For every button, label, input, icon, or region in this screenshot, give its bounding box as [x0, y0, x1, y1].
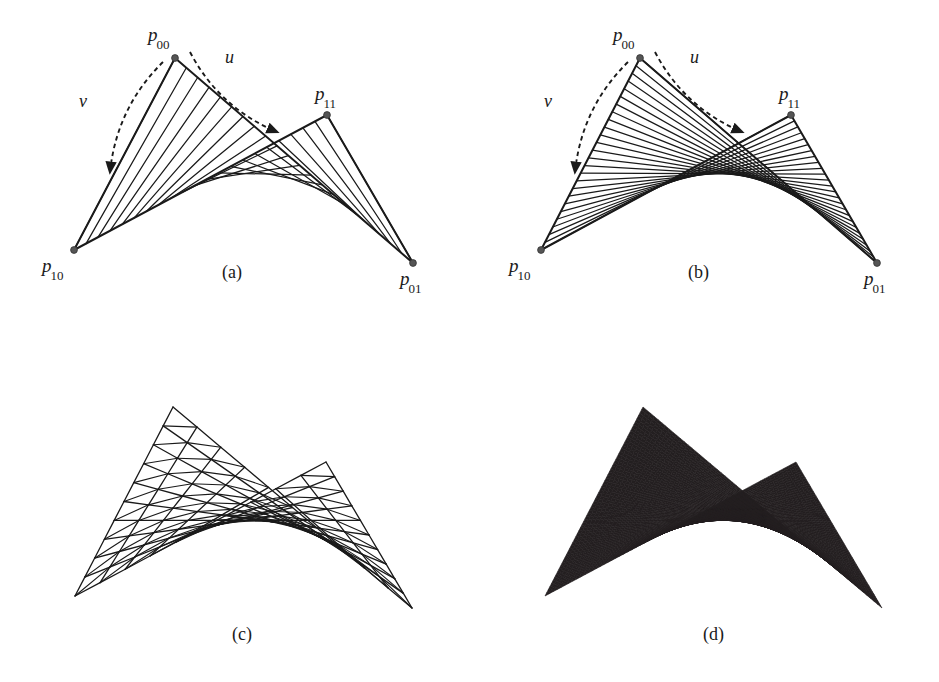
corner-point-p11	[324, 112, 331, 119]
corner-point-p01	[410, 260, 417, 267]
corner-point-p00	[637, 55, 644, 62]
ruling-u	[110, 87, 209, 230]
corner-label-p01-panel-a: p01	[400, 268, 423, 294]
mesh-edge-u	[202, 459, 212, 471]
corner-point-p00	[172, 55, 179, 62]
mesh-edge-v	[178, 458, 202, 471]
patch-edge-right	[791, 115, 877, 263]
mesh-edge-v	[301, 462, 326, 475]
mesh-edge-u	[216, 485, 225, 494]
mesh-edge-diagonal	[100, 557, 135, 583]
patch-edge-bottom	[74, 115, 327, 250]
mesh-edge-diagonal	[163, 426, 197, 427]
panel-caption-b: (b)	[688, 262, 709, 283]
mesh-edge-v	[163, 426, 187, 443]
mesh-edge-diagonal	[144, 458, 178, 464]
mesh-edge-diagonal	[235, 476, 268, 487]
panel-caption-a: (a)	[222, 262, 242, 283]
mesh-edge-v	[183, 496, 207, 503]
patch-edge-top	[175, 58, 413, 263]
mesh-edge-v	[124, 502, 149, 505]
mesh-edge-u	[395, 579, 404, 594]
mesh-edge-u	[134, 464, 144, 483]
param-label-u-panel-a: u	[225, 47, 234, 68]
corner-point-p01	[874, 260, 881, 267]
mesh-edge-v	[318, 491, 343, 498]
mesh-edge-u	[283, 508, 292, 510]
ruling-u	[134, 107, 231, 218]
ruling-u	[98, 78, 198, 238]
corner-label-subscript: 10	[518, 268, 531, 283]
mesh-edge-diagonal	[338, 544, 371, 565]
mesh-edge-v	[245, 467, 269, 487]
mesh-edge-v	[327, 506, 352, 509]
param-label-v-panel-a: v	[79, 91, 87, 112]
mesh-edge-u	[144, 445, 154, 464]
panel-d-graphic	[545, 407, 882, 608]
corner-label-subscript: 00	[157, 37, 170, 52]
mesh-edge-v	[192, 484, 216, 494]
mesh-edge-v	[276, 475, 301, 488]
panel-b-graphic	[538, 52, 881, 266]
ruling-u	[158, 126, 254, 205]
ruling-v	[632, 73, 870, 251]
mesh-edge-u	[310, 487, 319, 498]
corner-label-subscript: 10	[51, 268, 64, 283]
mesh-edge-u	[192, 472, 202, 484]
mesh-edge-v	[310, 477, 335, 487]
corner-label-p10-panel-b: p10	[509, 255, 532, 281]
corner-label-subscript: 11	[788, 96, 801, 111]
mesh-edge-u	[250, 493, 259, 499]
mesh-edge-u	[211, 447, 221, 459]
ruling-v	[628, 81, 867, 245]
param-label-v-panel-b: v	[544, 91, 552, 112]
corner-label-subscript: 00	[622, 37, 635, 52]
mesh-edge-u	[276, 489, 285, 497]
mesh-edge-diagonal	[301, 475, 335, 476]
mesh-edge-u	[301, 475, 310, 486]
mesh-edge-u	[235, 467, 244, 476]
mesh-edge-v	[198, 512, 223, 515]
param-label-u-panel-b: u	[690, 47, 699, 68]
mesh-edge-v	[158, 489, 182, 496]
mesh-edge-v	[149, 505, 174, 508]
mesh-edge-diagonal	[153, 443, 187, 445]
corner-label-subscript: 01	[409, 281, 422, 296]
mesh-edge-u	[226, 476, 235, 485]
corner-label-p11-panel-b: p11	[779, 83, 801, 109]
corner-point-p11	[788, 112, 795, 119]
corner-label-subscript: 11	[324, 96, 337, 111]
mesh-edge-diagonal	[168, 472, 202, 474]
mesh-edge-v	[293, 498, 318, 505]
ruling-v	[620, 96, 860, 233]
mesh-edge-v	[168, 474, 192, 484]
figure-root: p00p10p11p01uv(a)p00p10p11p01uv(b)(c)(d)	[0, 0, 939, 682]
mesh-edge-diagonal	[285, 497, 319, 498]
mesh-edge-diagonal	[371, 565, 404, 593]
corner-label-p00-panel-b: p00	[613, 24, 636, 50]
corner-label-subscript: 01	[873, 281, 886, 296]
panel-caption-c: (c)	[232, 624, 252, 645]
surface-patch-layer	[71, 52, 882, 608]
mesh-edge-v	[173, 407, 197, 427]
panel-c-graphic	[75, 407, 412, 608]
mesh-edge-diagonal	[178, 458, 212, 459]
mesh-edge-u	[163, 407, 173, 426]
patch-edge-left	[541, 58, 640, 250]
ruling-u	[122, 97, 220, 224]
mesh-edge-u	[187, 427, 197, 443]
panel-caption-d: (d)	[703, 624, 724, 645]
mesh-edge-v	[144, 464, 168, 474]
mesh-edge-u	[178, 443, 188, 459]
mesh-edge-u	[259, 487, 268, 493]
mesh-edge-v	[173, 508, 198, 511]
mesh-edge-diagonal	[192, 484, 226, 485]
mesh-edge-u	[168, 458, 178, 474]
ruling-v	[624, 89, 863, 240]
ruling-v	[612, 112, 853, 222]
mesh-edge-u	[326, 462, 335, 477]
mesh-edge-v	[302, 509, 327, 512]
corner-point-p10	[71, 247, 78, 254]
mesh-edge-u	[285, 497, 294, 505]
mesh-edge-diagonal	[183, 494, 217, 496]
